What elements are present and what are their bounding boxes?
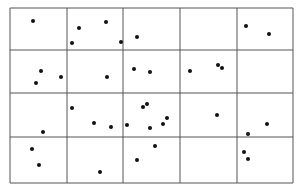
point-dot — [215, 113, 219, 117]
point-dot — [109, 125, 113, 129]
point-dot — [70, 106, 74, 110]
point-dot — [104, 20, 108, 24]
point-dot — [125, 123, 129, 127]
point-dot — [161, 122, 165, 126]
point-dot — [135, 158, 139, 162]
point-dot — [30, 147, 34, 151]
point-dot — [246, 132, 250, 136]
point-dot — [31, 19, 35, 23]
point-dot — [148, 126, 152, 130]
point-dot — [141, 105, 145, 109]
point-dot — [242, 150, 246, 154]
point-dot — [267, 32, 271, 36]
point-dot — [265, 122, 269, 126]
point-dot — [148, 70, 152, 74]
point-dot — [153, 144, 157, 148]
point-dot — [98, 170, 102, 174]
point-dot — [188, 69, 192, 73]
point-dot — [165, 116, 169, 120]
point-dot — [220, 66, 224, 70]
grid-diagram — [0, 0, 299, 190]
point-dot — [59, 75, 63, 79]
point-dot — [41, 130, 45, 134]
point-dot — [70, 41, 74, 45]
point-dot — [119, 40, 123, 44]
point-dot — [37, 163, 41, 167]
point-dot — [105, 75, 109, 79]
point-dot — [132, 67, 136, 71]
point-dot — [34, 81, 38, 85]
point-dot — [39, 69, 43, 73]
point-dot — [244, 24, 248, 28]
point-dot — [135, 35, 139, 39]
point-dot — [92, 121, 96, 125]
point-dot — [145, 102, 149, 106]
point-dot — [77, 26, 81, 30]
point-dot — [246, 157, 250, 161]
